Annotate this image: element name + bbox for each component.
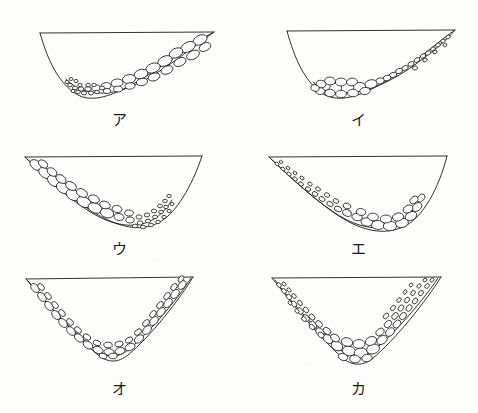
panel-ka: カ xyxy=(239,265,478,413)
panel-grid: ア xyxy=(0,0,478,413)
panel-label-u: ウ xyxy=(0,242,239,257)
panel-label-a: ア xyxy=(0,113,239,128)
rim-line-o xyxy=(26,277,193,279)
panel-label-ka: カ xyxy=(239,382,478,397)
clast-group-i xyxy=(310,34,451,97)
panel-label-i: イ xyxy=(239,113,478,128)
panel-u: ウ xyxy=(0,140,239,265)
panel-label-e: エ xyxy=(239,242,478,257)
rim-line-ka xyxy=(272,277,441,278)
panel-i: イ xyxy=(239,0,478,140)
panel-a: ア xyxy=(0,0,239,140)
rim-line-u xyxy=(25,156,202,157)
valley-outline-u xyxy=(25,156,202,228)
rim-line-a xyxy=(40,32,214,33)
clast-group-ka xyxy=(276,277,435,363)
figure-sheet: ア xyxy=(0,0,478,413)
panel-e: エ xyxy=(239,140,478,265)
rim-line-i xyxy=(287,30,455,31)
rim-line-e xyxy=(269,156,447,157)
panel-label-o: オ xyxy=(0,382,239,397)
clast-group-a xyxy=(65,33,212,95)
panel-o: オ xyxy=(0,265,239,413)
clast-group-e xyxy=(274,160,426,231)
